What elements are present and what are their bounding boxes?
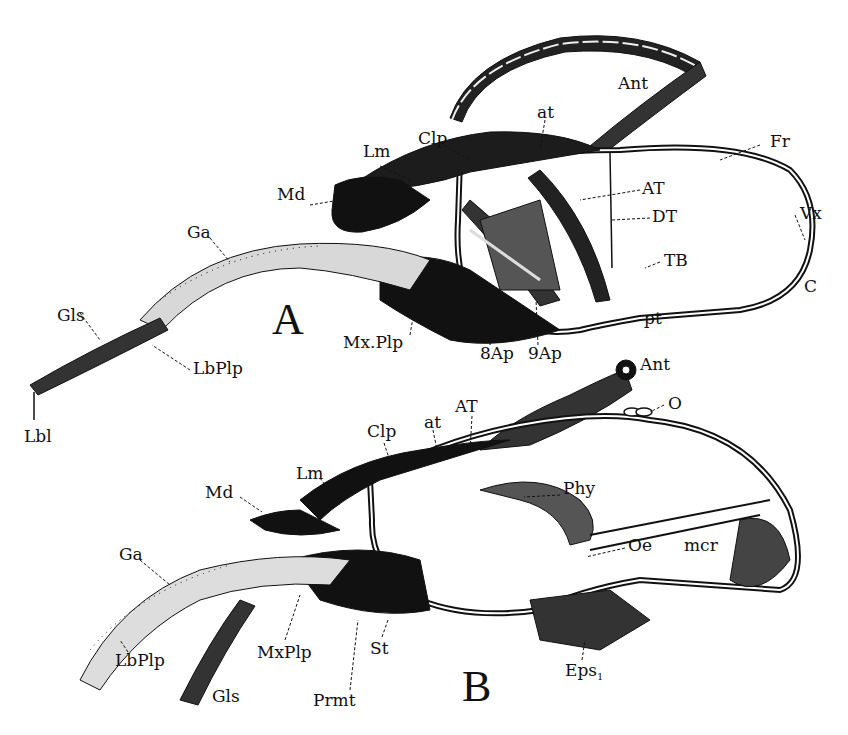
label-mxplp-a: Mx.Plp xyxy=(343,334,403,351)
label-mxplp-b: MxPlp xyxy=(257,644,312,661)
label-9ap-a: 9Ap xyxy=(528,345,562,362)
label-gls-b: Gls xyxy=(212,688,240,705)
label-lm-a: Lm xyxy=(363,143,390,160)
label-st-a: St xyxy=(453,318,471,335)
label-vx-a: Vx xyxy=(800,205,822,222)
label-at-a: at xyxy=(537,104,554,121)
anatomy-illustration xyxy=(0,0,848,735)
label-st-b: St xyxy=(370,640,388,657)
label-oe-b: Oe xyxy=(628,537,652,554)
label-o-b: O xyxy=(668,395,682,412)
label-tb-a: TB xyxy=(664,252,688,269)
label-ga-a: Ga xyxy=(187,224,211,241)
label-at-upper-a: AT xyxy=(642,180,665,197)
label-mcr-b: mcr xyxy=(684,537,718,554)
label-phy-b: Phy xyxy=(563,480,595,497)
panel-letter-a: A xyxy=(272,298,304,342)
label-lm-b: Lm xyxy=(296,465,323,482)
label-ant-b: Ant xyxy=(640,356,670,373)
label-clp-a: Clp xyxy=(418,130,447,147)
label-pt-a: pt xyxy=(644,310,662,327)
antenna-b xyxy=(480,370,632,450)
label-lbl-a: Lbl xyxy=(24,428,52,445)
figure-a-drawing xyxy=(30,36,813,420)
label-lbplp-b: LbPlp xyxy=(115,652,165,669)
label-eps1-b: Eps1 xyxy=(565,662,603,682)
eps-muscle-b xyxy=(530,590,650,650)
clypeus-b xyxy=(300,440,510,520)
label-md-b: Md xyxy=(205,484,233,501)
label-gls-a: Gls xyxy=(57,307,85,324)
panel-letter-b: B xyxy=(462,665,491,709)
label-md-a: Md xyxy=(277,186,305,203)
label-dt-a: DT xyxy=(652,208,677,225)
label-prmt-b: Prmt xyxy=(313,692,356,709)
label-at-upper-b: AT xyxy=(455,398,478,415)
label-ant-a: Ant xyxy=(618,75,648,92)
label-ga-b: Ga xyxy=(119,546,143,563)
label-lbplp-a: LbPlp xyxy=(193,360,243,377)
label-at-b: at xyxy=(424,414,441,431)
label-c-a: C xyxy=(804,278,817,295)
glossa-a xyxy=(30,318,168,395)
label-fr-a: Fr xyxy=(770,133,790,150)
label-8ap-a: 8Ap xyxy=(480,345,514,362)
label-clp-b: Clp xyxy=(367,423,396,440)
